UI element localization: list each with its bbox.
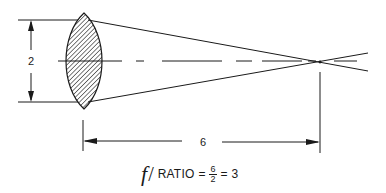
- fraction-denominator: 2: [209, 175, 216, 184]
- arrow-right-icon: [306, 139, 320, 145]
- focal-point: [319, 61, 322, 64]
- aperture-label: 2: [28, 55, 34, 67]
- fraction: 6 2: [209, 165, 216, 184]
- upper-ray: [88, 20, 368, 71]
- arrow-left-icon: [83, 138, 97, 144]
- ratio-word: RATIO: [158, 167, 195, 181]
- lower-ray: [88, 53, 368, 102]
- f-symbol: f: [141, 163, 147, 185]
- equals-sign: =: [198, 167, 205, 181]
- focal-length-label: 6: [200, 136, 206, 148]
- equals-sign-2: =: [221, 167, 228, 181]
- arrow-up-icon: [28, 20, 34, 31]
- arrow-down-icon: [28, 91, 34, 102]
- slash: /: [148, 164, 154, 184]
- formula-result: 3: [232, 167, 239, 181]
- fraction-numerator: 6: [209, 165, 216, 175]
- f-ratio-formula: f / RATIO = 6 2 = 3: [141, 161, 238, 187]
